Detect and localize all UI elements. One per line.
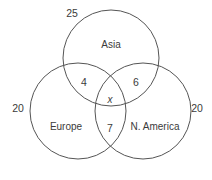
- venn-diagram: Asia Europe N. America 25 4 6 x 7 20 20: [0, 0, 212, 180]
- circle-europe: [30, 63, 126, 159]
- circle-asia: [63, 10, 159, 106]
- venn-circles-group: [0, 0, 212, 180]
- circle-n-america: [95, 63, 191, 159]
